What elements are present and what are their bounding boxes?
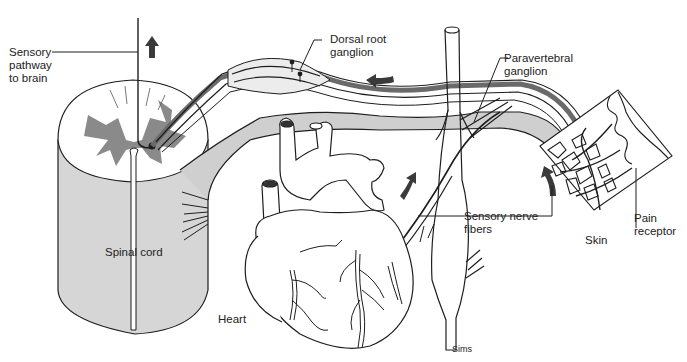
label-credit: Sims bbox=[452, 343, 472, 356]
ascending-arrow-icon bbox=[145, 36, 159, 58]
label-skin: Skin bbox=[585, 234, 607, 247]
afferent-arrow-heart-icon bbox=[400, 172, 416, 200]
label-pain-receptor: Pain receptor bbox=[634, 212, 676, 238]
label-spinal-cord: Spinal cord bbox=[105, 246, 163, 259]
skin-section bbox=[540, 90, 672, 210]
label-sensory-nerve-fibers: Sensory nerve fibers bbox=[464, 210, 538, 236]
label-dorsal-root-ganglion: Dorsal root ganglion bbox=[330, 33, 386, 59]
spinal-cord bbox=[58, 80, 208, 334]
heart bbox=[245, 118, 413, 348]
label-sensory-pathway: Sensory pathway to brain bbox=[9, 46, 52, 85]
sympathetic-trunk bbox=[432, 27, 512, 350]
label-heart: Heart bbox=[218, 313, 246, 326]
label-paravertebral-ganglion: Paravertebral ganglion bbox=[504, 52, 573, 78]
